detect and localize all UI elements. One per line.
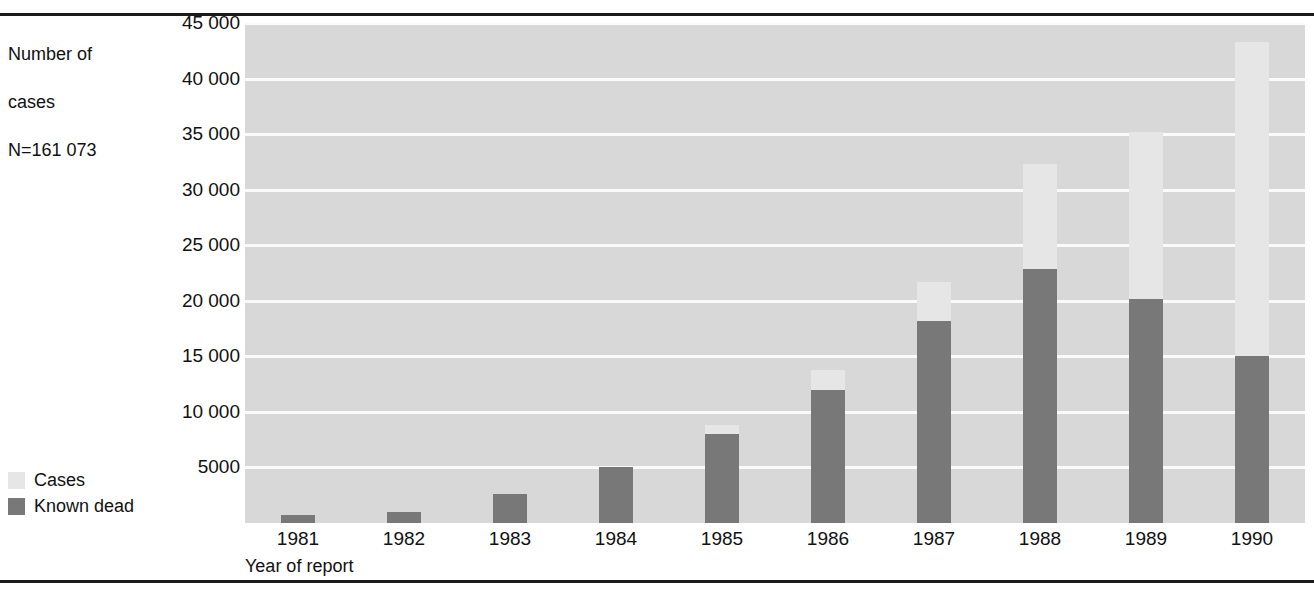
bar-segment-known-dead[interactable] (705, 434, 739, 523)
y-tick-label: 20 000 (120, 291, 240, 310)
bar-segment-known-dead[interactable] (281, 515, 315, 523)
bars-container (245, 23, 1305, 523)
chart-legend: CasesKnown dead (8, 468, 208, 520)
legend-label: Cases (34, 471, 85, 489)
y-tick-label: 40 000 (120, 69, 240, 88)
bar-segment-known-dead[interactable] (1023, 269, 1057, 523)
bar-segment-known-dead[interactable] (387, 512, 421, 523)
x-axis-labels: 1981198219831984198519861987198819891990 (245, 528, 1305, 558)
x-tick-label: 1987 (889, 528, 979, 550)
y-tick-label: 15 000 (120, 346, 240, 365)
chart-figure: Number of cases N=161 073 500010 00015 0… (0, 0, 1314, 596)
x-tick-label: 1981 (253, 528, 343, 550)
plot-area (245, 23, 1305, 523)
bar-segment-known-dead[interactable] (917, 321, 951, 523)
x-tick-label: 1984 (571, 528, 661, 550)
bar-segment-known-dead[interactable] (811, 390, 845, 523)
y-tick-label: 30 000 (120, 180, 240, 199)
y-tick-label: 25 000 (120, 235, 240, 254)
bar-segment-known-dead[interactable] (1129, 299, 1163, 523)
x-tick-label: 1983 (465, 528, 555, 550)
y-tick-label: 10 000 (120, 402, 240, 421)
legend-label: Known dead (34, 497, 134, 515)
y-tick-label: 35 000 (120, 124, 240, 143)
legend-item: Cases (8, 468, 208, 492)
x-tick-label: 1990 (1207, 528, 1297, 550)
y-tick-label: 45 000 (120, 13, 240, 32)
x-tick-label: 1986 (783, 528, 873, 550)
x-tick-label: 1985 (677, 528, 767, 550)
legend-item: Known dead (8, 494, 208, 518)
bottom-rule (0, 580, 1314, 583)
bar-segment-known-dead[interactable] (599, 467, 633, 523)
bar-segment-known-dead[interactable] (1235, 356, 1269, 523)
x-tick-label: 1982 (359, 528, 449, 550)
x-tick-label: 1988 (995, 528, 1085, 550)
legend-swatch-icon (8, 472, 25, 489)
legend-swatch-icon (8, 498, 25, 515)
bar-segment-known-dead[interactable] (493, 494, 527, 523)
x-tick-label: 1989 (1101, 528, 1191, 550)
x-axis-title: Year of report (245, 556, 353, 576)
